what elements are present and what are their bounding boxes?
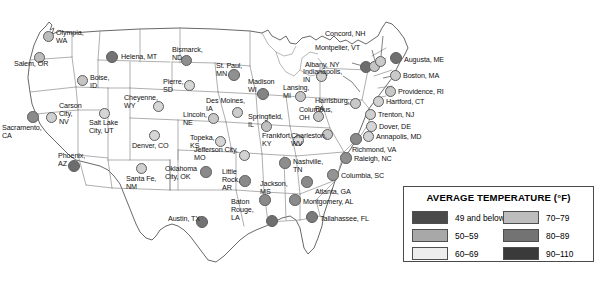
legend-row: 60–69 — [412, 245, 505, 262]
city-dot — [239, 150, 250, 161]
city-label: Hartford, CT — [386, 98, 424, 106]
city-label: Montpelier, VT — [315, 44, 360, 52]
city-label: Salt Lake City, UT — [89, 119, 118, 135]
city-dot — [43, 31, 54, 42]
legend-swatch — [412, 247, 448, 260]
city-label: Harrisburg, PA — [315, 97, 349, 113]
city-label: Cheyenne, WY — [124, 94, 158, 110]
city-label: Jefferson City, MO — [194, 146, 238, 162]
city-label: Columbia, SC — [341, 172, 384, 180]
legend-swatch — [412, 211, 448, 224]
city-dot — [366, 121, 377, 132]
legend-label: 70–79 — [546, 213, 569, 223]
legend-label: 90–110 — [546, 249, 573, 259]
city-dot — [106, 51, 118, 63]
city-dot — [363, 131, 374, 142]
city-label: Montgomery, AL — [303, 198, 353, 206]
city-label: Boston, MA — [403, 72, 439, 80]
legend-label: 80–89 — [546, 231, 569, 241]
city-dot — [200, 166, 212, 178]
city-label: Phoenix, AZ — [58, 152, 85, 168]
city-label: Atlanta, GA — [315, 188, 351, 196]
city-label: Sacramento, CA — [2, 124, 42, 140]
city-dot — [365, 109, 376, 120]
city-label: Carson City, NV — [59, 102, 82, 127]
city-dot — [184, 80, 195, 91]
city-dot — [327, 169, 339, 181]
city-label: Concord, NH — [325, 30, 365, 38]
city-dot — [375, 56, 386, 67]
legend-label: 50–59 — [455, 231, 478, 241]
city-label: Annapolis, MD — [376, 133, 421, 141]
legend-panel: AVERAGE TEMPERATURE (°F) 49 and below50–… — [403, 186, 594, 262]
city-label: Richmond, VA — [352, 146, 396, 154]
city-label: Baton Rouge, LA — [231, 198, 254, 223]
city-dot — [46, 112, 57, 123]
city-label: Raleigh, NC — [354, 155, 392, 163]
city-label: Bismarck, ND — [172, 46, 203, 62]
legend-label: 60–69 — [455, 249, 478, 259]
city-dot — [239, 175, 251, 187]
city-label: Charleston, WV — [291, 132, 327, 148]
city-label: Pierre, SD — [163, 78, 183, 94]
city-label: Helena, MT — [121, 53, 157, 61]
city-dot — [385, 86, 396, 97]
city-dot — [149, 130, 160, 141]
city-label: Dover, DE — [379, 123, 411, 131]
city-dot — [390, 70, 401, 81]
city-dot — [350, 133, 362, 145]
city-dot — [27, 111, 39, 123]
legend-swatch — [503, 247, 539, 260]
legend-swatch — [503, 211, 539, 224]
city-label: Lansing, MI — [283, 84, 309, 100]
legend-left-column: 49 and below50–5960–69 — [412, 209, 505, 263]
city-label: Lincoln, NE — [183, 111, 207, 127]
legend-swatch — [412, 229, 448, 242]
city-label: Providence, RI — [398, 88, 444, 96]
city-label: Indianapolis, IN — [303, 68, 342, 84]
city-label: Santa Fe, NM — [126, 175, 156, 191]
city-dot — [77, 75, 88, 86]
city-dot — [279, 157, 291, 169]
city-label: Frankfort, KY — [262, 132, 292, 148]
legend-row: 49 and below — [412, 209, 505, 226]
legend-swatch — [503, 229, 539, 242]
city-label: Des Moines, IA — [206, 97, 245, 113]
city-label: Augusta, ME — [404, 56, 444, 64]
city-dot — [350, 98, 361, 109]
city-label: Olympia, WA — [56, 29, 84, 45]
city-dot — [306, 211, 318, 223]
city-label: Albany, NY — [305, 61, 339, 69]
city-label: Tallahassee, FL — [320, 215, 369, 223]
legend-label: 49 and below — [455, 213, 505, 223]
city-dot — [373, 96, 384, 107]
temperature-map-page: Olympia, WASalem, ORBoise, IDHelena, MTB… — [0, 0, 601, 283]
city-label: Boise, ID — [90, 74, 109, 90]
city-label: Denver, CO — [132, 142, 169, 150]
city-dot — [208, 113, 219, 124]
legend-row: 90–110 — [503, 245, 573, 262]
city-label: St. Paul, MN — [216, 62, 242, 78]
legend-title: AVERAGE TEMPERATURE (°F) — [404, 192, 593, 203]
city-label: Salem, OR — [14, 60, 48, 68]
city-label: Austin, TX — [168, 215, 200, 223]
city-label: Madison WI — [248, 78, 274, 94]
city-dot — [99, 108, 110, 119]
city-label: Little Rock, AR — [222, 168, 240, 193]
city-dot — [136, 163, 147, 174]
city-label: Nashville, TN — [293, 158, 323, 174]
city-label: Springfield, IL — [248, 113, 283, 129]
city-label: Trenton, NJ — [378, 111, 414, 119]
legend-row: 80–89 — [503, 227, 573, 244]
city-dot — [340, 152, 352, 164]
city-label: Jackson, MS — [260, 180, 288, 196]
legend-right-column: 70–7980–8990–110 — [503, 209, 573, 263]
legend-row: 70–79 — [503, 209, 573, 226]
city-label: Oklahoma City, OK — [165, 165, 197, 181]
city-dot — [289, 194, 301, 206]
legend-row: 50–59 — [412, 227, 505, 244]
city-dot — [301, 176, 313, 188]
